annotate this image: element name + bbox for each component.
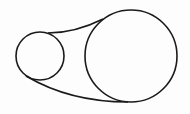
small-pulley-circle [16, 32, 64, 80]
pulley-diagram [0, 0, 190, 114]
large-pulley-circle [85, 10, 177, 102]
diagram-canvas [0, 0, 190, 114]
belt-upper-segment [48, 19, 103, 33]
